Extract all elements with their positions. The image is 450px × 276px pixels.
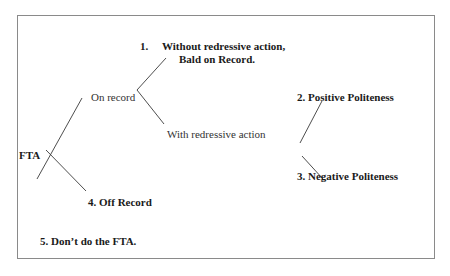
node-negative-politeness: 3. Negative Politeness <box>297 170 398 183</box>
node-without-redressive-action: 1.Without redressive action, Bald on Rec… <box>140 40 285 65</box>
node-off-record: 4. Off Record <box>88 196 152 209</box>
node-without-line2: Bald on Record. <box>179 53 255 65</box>
node-positive-politeness: 2. Positive Politeness <box>297 91 394 104</box>
node-fta: FTA <box>19 149 40 162</box>
line-fta-to-on-record <box>37 98 82 179</box>
line-on-record-to-with <box>137 90 164 124</box>
node-dont-do-fta: 5. Don’t do the FTA. <box>40 235 136 248</box>
line-fta-to-off-record <box>46 150 86 191</box>
node-without-line1: Without redressive action, <box>162 40 285 52</box>
line-with-to-positive <box>300 101 322 143</box>
node-with-redressive-action: With redressive action <box>167 128 266 141</box>
node-on-record: On record <box>91 91 135 104</box>
node-number: 1. <box>140 40 162 53</box>
